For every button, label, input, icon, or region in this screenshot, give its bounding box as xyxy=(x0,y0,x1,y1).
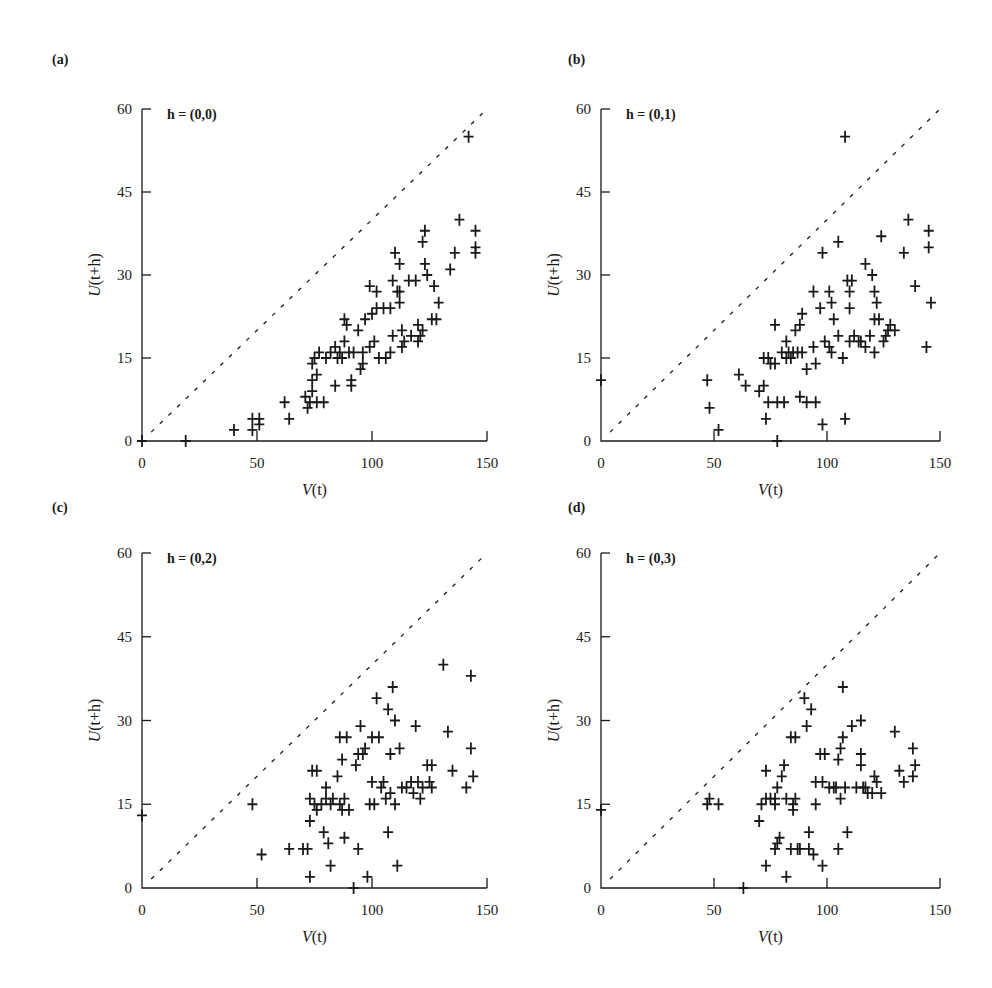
plus-marker xyxy=(815,302,825,314)
plus-marker xyxy=(741,380,751,392)
plus-marker xyxy=(381,793,391,805)
plus-marker xyxy=(874,313,884,325)
plus-marker xyxy=(362,871,372,883)
plus-marker xyxy=(284,413,294,425)
plus-marker xyxy=(445,263,455,275)
axes xyxy=(601,109,940,441)
x-tick-label: 50 xyxy=(707,455,722,471)
plus-marker xyxy=(365,341,375,353)
y-axis-title: U(t+h) xyxy=(545,699,563,743)
data-points xyxy=(596,681,920,894)
x-tick-label: 100 xyxy=(816,902,839,918)
plus-marker xyxy=(797,308,807,320)
plus-marker xyxy=(754,385,764,397)
plus-marker xyxy=(860,782,870,794)
plus-marker xyxy=(443,726,453,738)
plus-marker xyxy=(869,770,879,782)
plus-marker xyxy=(381,352,391,364)
plus-marker xyxy=(899,247,909,259)
plus-marker xyxy=(314,346,324,358)
plus-marker xyxy=(312,765,322,777)
plus-marker xyxy=(808,341,818,353)
plus-marker xyxy=(335,798,345,810)
plus-marker xyxy=(247,424,257,436)
y-tick-label: 45 xyxy=(576,184,591,200)
plus-marker xyxy=(924,225,934,237)
plus-marker xyxy=(305,871,315,883)
plus-marker xyxy=(856,335,866,347)
y-tick-label: 0 xyxy=(125,433,133,449)
plus-marker xyxy=(779,759,789,771)
plus-marker xyxy=(181,435,191,447)
y-tick-label: 0 xyxy=(125,880,133,896)
plus-marker xyxy=(413,776,423,788)
x-tick-label: 100 xyxy=(361,902,384,918)
plus-marker xyxy=(926,297,936,309)
plus-marker xyxy=(833,236,843,248)
data-points xyxy=(137,659,478,894)
plus-marker xyxy=(408,787,418,799)
plus-marker xyxy=(596,804,606,816)
plus-marker xyxy=(280,396,290,408)
plus-marker xyxy=(827,346,837,358)
plus-marker xyxy=(845,286,855,298)
plus-marker xyxy=(388,681,398,693)
plus-marker xyxy=(802,720,812,732)
plus-marker xyxy=(385,748,395,760)
plus-marker xyxy=(763,352,773,364)
y-tick-label: 45 xyxy=(576,629,591,645)
plus-marker xyxy=(333,770,343,782)
x-tick-label: 0 xyxy=(138,902,146,918)
x-tick-label: 150 xyxy=(929,455,952,471)
plus-marker xyxy=(388,330,398,342)
plus-marker xyxy=(450,247,460,259)
plus-marker xyxy=(353,843,363,855)
scatter-panel-a: 015304560050100150h = (0,0)V(t)U(t+h) xyxy=(86,101,498,499)
plus-marker xyxy=(838,681,848,693)
plus-marker xyxy=(761,413,771,425)
plus-marker xyxy=(319,826,329,838)
plus-marker xyxy=(448,765,458,777)
plus-marker xyxy=(434,297,444,309)
plus-marker xyxy=(418,236,428,248)
x-tick-label: 50 xyxy=(250,455,265,471)
plus-marker xyxy=(808,849,818,861)
y-tick-label: 30 xyxy=(576,267,591,283)
plus-marker xyxy=(319,396,329,408)
plus-marker xyxy=(704,402,714,414)
plus-marker xyxy=(756,798,766,810)
plus-marker xyxy=(137,435,147,447)
plus-marker xyxy=(413,335,423,347)
plus-marker xyxy=(788,798,798,810)
plus-marker xyxy=(869,346,879,358)
plus-marker xyxy=(910,759,920,771)
x-tick-label: 100 xyxy=(816,455,839,471)
plus-marker xyxy=(838,731,848,743)
plus-marker xyxy=(305,815,315,827)
plus-marker xyxy=(464,131,474,143)
plus-marker xyxy=(804,843,814,855)
y-tick-label: 0 xyxy=(584,880,592,896)
plus-marker xyxy=(770,319,780,331)
plus-marker xyxy=(323,837,333,849)
plus-marker xyxy=(840,131,850,143)
plus-marker xyxy=(330,380,340,392)
y-tick-label: 30 xyxy=(117,713,132,729)
x-tick-label: 100 xyxy=(361,455,384,471)
plus-marker xyxy=(397,341,407,353)
plus-marker xyxy=(836,793,846,805)
plus-marker xyxy=(856,715,866,727)
y-axis-title: U(t+h) xyxy=(86,253,104,297)
x-tick-label: 0 xyxy=(597,455,605,471)
plus-marker xyxy=(596,374,606,386)
plus-marker xyxy=(360,742,370,754)
plus-marker xyxy=(770,843,780,855)
plus-marker xyxy=(770,793,780,805)
y-tick-label: 60 xyxy=(117,101,132,117)
plus-marker xyxy=(312,804,322,816)
plus-marker xyxy=(379,776,389,788)
plus-marker xyxy=(284,843,294,855)
plus-marker xyxy=(817,418,827,430)
plus-marker xyxy=(763,396,773,408)
plus-marker xyxy=(795,391,805,403)
